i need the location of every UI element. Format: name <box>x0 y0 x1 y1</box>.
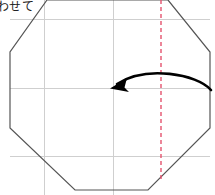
origami-diagram: わせて <box>0 0 215 195</box>
octagon-paper-fill <box>10 0 210 190</box>
origami-figure-canvas <box>0 0 215 195</box>
instruction-caption: わせて <box>0 0 34 15</box>
